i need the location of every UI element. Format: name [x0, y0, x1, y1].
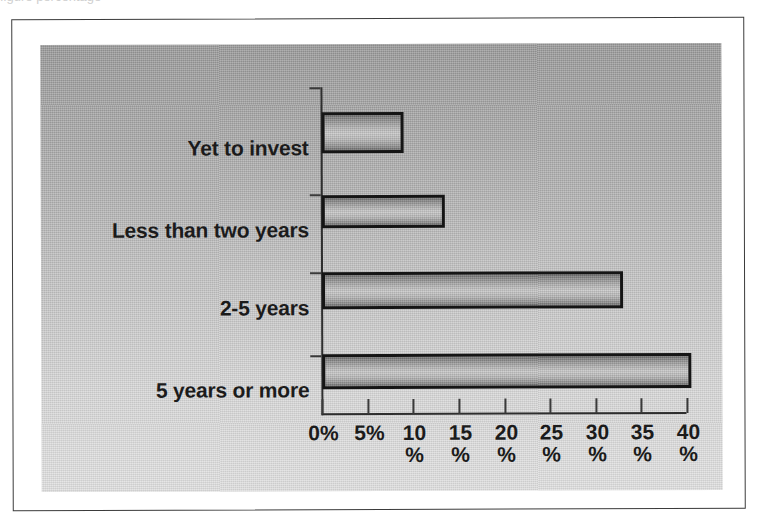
bar-yet-to-invest — [322, 112, 404, 153]
value-axis-tick-10 — [412, 399, 414, 414]
value-axis-tick-5 — [367, 399, 369, 414]
scan-top-text: figure percentage — [0, 0, 101, 4]
category-axis-tick-1 — [310, 194, 321, 196]
bar-less-than-two-years — [322, 195, 445, 228]
figure-frame: Yet to invest Less than two years 2-5 ye… — [11, 17, 746, 511]
value-axis-label-35-line1: 35 — [619, 421, 665, 443]
value-axis-tick-30 — [595, 398, 597, 413]
chart-plot-area: Yet to invest Less than two years 2-5 ye… — [40, 43, 722, 492]
value-axis-label-35: 35 % — [619, 421, 665, 465]
value-axis-label-20: 20 % — [483, 422, 529, 466]
value-axis-label-5: 5% — [346, 422, 392, 444]
value-axis-label-40-line1: 40 — [665, 421, 711, 443]
value-axis-label-10-line1: 10 — [391, 422, 437, 444]
bar-2-5-years — [322, 271, 623, 309]
value-axis-tick-15 — [458, 399, 460, 414]
category-label-5-years-or-more: 5 years or more — [156, 379, 310, 400]
value-axis-label-30-line2: % — [575, 443, 621, 465]
category-label-less-than-two-years: Less than two years — [112, 219, 309, 241]
value-axis-tick-20 — [504, 399, 506, 414]
value-axis-label-10-line2: % — [392, 444, 438, 466]
category-label-yet-to-invest: Yet to invest — [187, 137, 308, 158]
value-axis-label-35-line2: % — [620, 443, 666, 465]
value-axis-label-5-line1: 5% — [346, 422, 392, 444]
category-label-2-5-years: 2-5 years — [220, 297, 309, 318]
scan-top-text-fragment: figure percentage — [0, 0, 758, 12]
value-axis-label-10: 10 % — [391, 422, 437, 466]
value-axis-label-40-line2: % — [666, 443, 712, 465]
category-axis-tick-top — [309, 87, 320, 89]
category-axis-tick-3 — [310, 355, 321, 357]
value-axis-label-30-line1: 30 — [574, 421, 620, 443]
value-axis-label-15-line1: 15 — [437, 422, 483, 444]
value-axis-label-25: 25 % — [528, 421, 574, 465]
value-axis-label-15-line2: % — [438, 444, 484, 466]
bar-5-years-or-more — [322, 353, 691, 389]
value-axis-label-0-line1: 0% — [300, 422, 346, 444]
category-axis-tick-2 — [310, 272, 321, 274]
value-axis-label-25-line1: 25 — [528, 421, 574, 443]
value-axis-label-20-line1: 20 — [483, 422, 529, 444]
value-axis-label-40: 40 % — [665, 421, 711, 465]
value-axis-label-30: 30 % — [574, 421, 620, 465]
value-axis-tick-35 — [640, 398, 642, 413]
value-axis-tick-25 — [549, 398, 551, 413]
value-axis-label-0: 0% — [300, 422, 346, 444]
value-axis-tick-0 — [321, 399, 323, 414]
value-axis-label-25-line2: % — [529, 443, 575, 465]
value-axis-tick-40 — [686, 398, 688, 413]
value-axis-label-15: 15 % — [437, 422, 483, 466]
value-axis-label-20-line2: % — [484, 444, 530, 466]
